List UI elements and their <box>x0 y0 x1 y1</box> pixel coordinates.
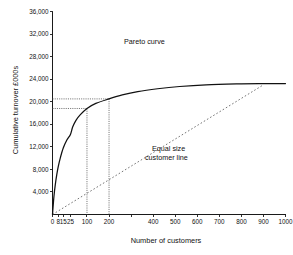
y-axis-title: Cumulative turnover £000s <box>11 66 20 155</box>
x-tick-label: 200 <box>104 218 115 225</box>
y-tick-label: 36,000 <box>29 8 49 15</box>
equal-size-line-label-line2: customer line <box>145 153 188 162</box>
y-tick-label: 12,000 <box>29 143 49 150</box>
x-tick-label: 500 <box>170 218 181 225</box>
x-tick-label: 25 <box>67 218 75 225</box>
x-tick-label: 100 <box>82 218 93 225</box>
y-axis-ticks: 4,0008,00012,00016,00020,00024,00028,000… <box>29 8 52 195</box>
y-tick-label: 20,000 <box>29 98 49 105</box>
chart-canvas: 4,0008,00012,00016,00020,00024,00028,000… <box>0 0 293 255</box>
x-tick-label: 400 <box>148 218 159 225</box>
x-axis-ticks: 0815251002004005006007008009001000 <box>51 215 293 226</box>
x-tick-label: 800 <box>236 218 247 225</box>
y-tick-label: 16,000 <box>29 120 49 127</box>
x-axis-title: Number of customers <box>131 236 202 245</box>
pareto-curve-label: Pareto curve <box>124 37 165 46</box>
x-tick-label: 700 <box>214 218 225 225</box>
y-tick-label: 32,000 <box>29 30 49 37</box>
equal-size-line-label-line1: Equal size <box>152 144 185 153</box>
y-tick-label: 4,000 <box>33 188 49 195</box>
y-tick-label: 28,000 <box>29 53 49 60</box>
pareto-chart: 4,0008,00012,00016,00020,00024,00028,000… <box>0 0 293 255</box>
x-tick-label: 0 <box>51 218 55 225</box>
x-tick-label: 900 <box>258 218 269 225</box>
y-tick-label: 8,000 <box>33 166 49 173</box>
x-tick-label: 1000 <box>278 218 293 225</box>
x-tick-label: 600 <box>192 218 203 225</box>
y-tick-label: 24,000 <box>29 75 49 82</box>
